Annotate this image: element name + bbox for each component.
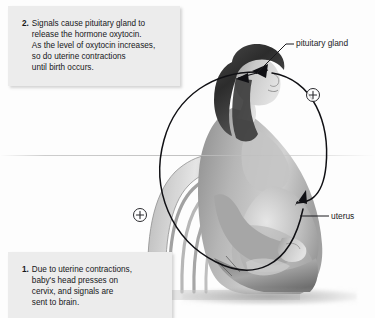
label-pituitary-gland: pituitary gland — [296, 38, 348, 48]
childbirth-positive-feedback-figure: 2. Signals cause pituitary gland to rele… — [0, 0, 375, 318]
label-uterus: uterus — [331, 211, 354, 221]
positive-feedback-marker-upper — [307, 89, 320, 102]
feedback-loop-arc-left — [160, 72, 303, 270]
positive-feedback-marker-lower — [134, 209, 147, 222]
signal-arrowhead-head — [236, 73, 249, 83]
